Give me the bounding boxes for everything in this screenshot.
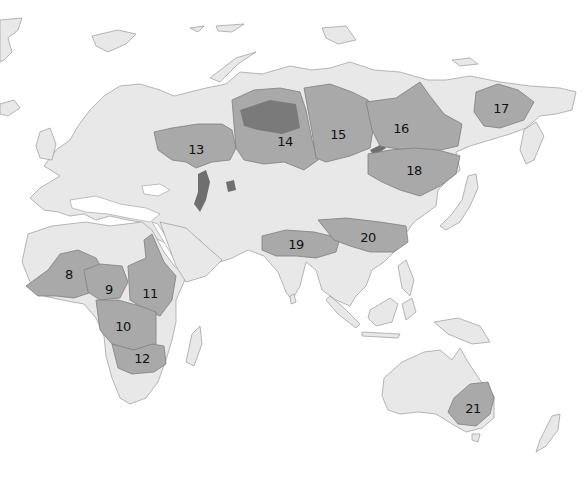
region-label-15: 15 (330, 127, 346, 142)
region-label-13: 13 (188, 142, 204, 157)
franz-josef-landmass (190, 24, 244, 32)
region-label-17: 17 (493, 101, 509, 116)
sulawesi-landmass (402, 298, 416, 320)
svalbard-landmass (92, 30, 136, 52)
region-label-14: 14 (277, 134, 293, 149)
iceland-landmass (0, 100, 20, 116)
sri-lanka-landmass (290, 294, 296, 304)
new-guinea-landmass (434, 318, 490, 344)
region-label-16: 16 (393, 121, 409, 136)
severnaya-zemlya-landmass (322, 26, 356, 44)
philippines-landmass (398, 260, 414, 296)
region-label-21: 21 (465, 401, 481, 416)
borneo-landmass (368, 298, 398, 326)
tasmania-landmass (472, 434, 480, 442)
region-label-11: 11 (142, 286, 158, 301)
region-label-18: 18 (406, 163, 422, 178)
region-label-19: 19 (288, 237, 304, 252)
britain-landmass (36, 128, 56, 160)
region-label-12: 12 (134, 351, 150, 366)
region-label-8: 8 (65, 267, 73, 282)
new-siberian-landmass (452, 58, 478, 66)
region-label-20: 20 (360, 230, 376, 245)
java-landmass (362, 332, 400, 338)
region-label-9: 9 (105, 282, 113, 297)
region-label-10: 10 (115, 319, 131, 334)
new-zealand-landmass (536, 414, 560, 452)
greenland-landmass (0, 18, 22, 62)
madagascar-landmass (186, 326, 202, 366)
